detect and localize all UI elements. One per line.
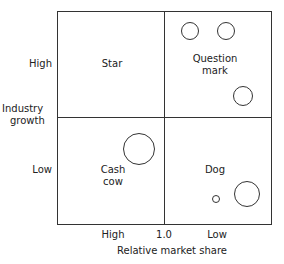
product-circle [181,22,199,40]
y-axis-low-label: Low [26,164,52,176]
vertical-divider [164,11,165,225]
x-axis-mid-label: 1.0 [152,229,176,241]
y-axis-title-line2: growth [2,115,52,127]
product-circle [233,86,253,106]
quadrant-star-label: Star [95,58,129,70]
quadrant-question-mark-label: Question mark [190,53,240,77]
quadrant-cash-cow-label: Cash cow [98,164,128,188]
x-axis-title: Relative market share [104,245,240,257]
quadrant-dog-label: Dog [200,164,230,176]
product-circle [212,195,220,203]
y-axis-title-line1: Industry [2,103,52,115]
y-axis-title: Industry growth [2,103,52,127]
x-axis-high-label: High [98,229,128,241]
horizontal-divider [57,117,272,118]
y-axis-high-label: High [26,58,52,70]
x-axis-low-label: Low [202,229,232,241]
product-circle [234,181,260,207]
product-circle [217,22,235,40]
product-circle [123,133,155,165]
